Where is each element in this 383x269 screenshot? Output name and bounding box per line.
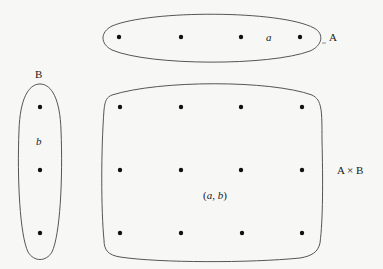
set-a-point	[298, 35, 302, 39]
cartesian-product-diagram: a A b B (a, b) A × B	[0, 0, 383, 269]
product-point	[300, 168, 304, 172]
pair-ab-label: (a, b)	[203, 189, 227, 202]
product-point	[179, 168, 183, 172]
product-point	[239, 105, 243, 109]
set-a-points	[117, 35, 302, 39]
set-b-points	[38, 105, 42, 235]
product-points	[118, 105, 304, 235]
product-point	[240, 231, 244, 235]
set-b-label: B	[35, 68, 42, 80]
set-a-boundary	[103, 14, 321, 62]
product-label: A × B	[337, 164, 363, 176]
set-a-label: A	[329, 31, 337, 43]
set-b-point	[38, 231, 42, 235]
product-boundary	[102, 84, 323, 262]
set-a-point	[179, 35, 183, 39]
set-b-point	[38, 168, 42, 172]
set-a-point	[239, 35, 243, 39]
element-a-label: a	[266, 31, 272, 43]
product-point	[118, 105, 122, 109]
element-b-label: b	[36, 135, 42, 147]
product-point	[118, 231, 122, 235]
product-point	[300, 231, 304, 235]
set-b-point	[38, 105, 42, 109]
product-point	[118, 168, 122, 172]
product-point	[179, 105, 183, 109]
product-point	[239, 168, 243, 172]
product-point	[300, 105, 304, 109]
set-a-point	[117, 35, 121, 39]
product-point	[179, 231, 183, 235]
